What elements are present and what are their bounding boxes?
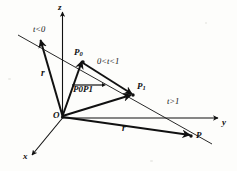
vector-r0-label: r xyxy=(41,69,45,79)
vector-o-to-p1-arrow xyxy=(63,95,132,116)
dot-p xyxy=(189,134,192,137)
vector-line-diagram: z y x O t<0 0<t<1 t>1 P0 P1 P r r P0P1 xyxy=(0,0,237,171)
origin-label: O xyxy=(53,111,60,120)
vector-r-label: r xyxy=(122,124,126,134)
parametric-line xyxy=(18,35,212,144)
dot-p1 xyxy=(131,93,134,96)
param-t-greater-label: t>1 xyxy=(167,97,179,106)
vector-p0p1-label: P0P1 xyxy=(73,79,93,95)
point-p1-label: P1 xyxy=(137,82,146,92)
x-axis-label: x xyxy=(23,152,28,161)
vector-p0p1-sub1: 1 xyxy=(89,84,94,94)
point-p0-subscript: 0 xyxy=(80,50,83,57)
point-p0-label: P0 xyxy=(74,48,83,58)
param-t-between-label: 0<t<1 xyxy=(97,57,119,66)
point-p1-subscript: 1 xyxy=(143,84,146,91)
vector-r-arrow xyxy=(63,117,191,135)
parametric-line-segment xyxy=(18,35,212,144)
axis-lines xyxy=(32,12,218,155)
x-axis-line xyxy=(32,118,63,155)
point-p-label: P xyxy=(196,131,202,141)
y-axis-label: y xyxy=(222,118,226,127)
vector-p0p1-text: P0P1 xyxy=(73,84,93,94)
param-t-negative-label: t<0 xyxy=(33,25,45,34)
dot-p0 xyxy=(81,60,84,63)
point-p-base: P xyxy=(196,130,202,140)
dot-origin xyxy=(61,115,64,118)
z-axis-label: z xyxy=(58,3,62,12)
